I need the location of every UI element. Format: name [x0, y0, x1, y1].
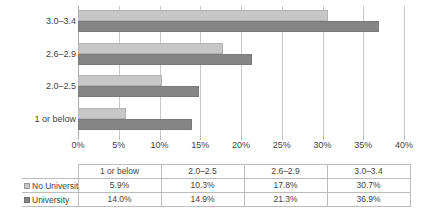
- table-column-header: 2.0–2.5: [161, 165, 244, 179]
- y-axis-label: 3.0–3.4: [0, 17, 76, 26]
- table-row: University14.0%14.9%21.3%36.9%: [22, 193, 410, 207]
- table-series-legend-cell: No University: [22, 179, 78, 193]
- bar-1: [78, 21, 379, 32]
- chart-data-table: 1 or below2.0–2.52.6–2.93.0–3.4No Univer…: [22, 164, 411, 207]
- x-axis-tick-label: 40%: [384, 140, 424, 150]
- grouped-bar-chart-with-data-table: 1 or below2.0–2.52.6–2.93.0–3.4 0%5%10%1…: [0, 0, 438, 215]
- bar-group: [78, 71, 404, 104]
- bar-0: [78, 75, 162, 86]
- table-column-header: 3.0–3.4: [327, 165, 410, 179]
- x-axis-tick-label: 20%: [221, 140, 261, 150]
- table-header-row: 1 or below2.0–2.52.6–2.93.0–3.4: [22, 165, 410, 179]
- table-row: No University5.9%10.3%17.8%30.7%: [22, 179, 410, 193]
- chart-plot-region: 1 or below2.0–2.52.6–2.93.0–3.4 0%5%10%1…: [0, 0, 438, 160]
- bar-group: [78, 104, 404, 137]
- x-axis-tick-label: 5%: [99, 140, 139, 150]
- x-axis-tick-label: 25%: [262, 140, 302, 150]
- y-axis-label: 2.0–2.5: [0, 82, 76, 91]
- bar-0: [78, 43, 223, 54]
- table-series-legend-cell: University: [22, 193, 78, 207]
- table-value-cell: 10.3%: [161, 179, 244, 193]
- x-axis-tick-label: 10%: [140, 140, 180, 150]
- legend-swatch-icon: [24, 197, 30, 203]
- legend-label: University: [32, 195, 69, 205]
- table-value-cell: 36.9%: [327, 193, 410, 207]
- bar-0: [78, 10, 328, 21]
- legend-label: No University: [32, 181, 78, 191]
- table-column-header: 2.6–2.9: [244, 165, 327, 179]
- plot-area: [78, 6, 404, 136]
- table-value-cell: 21.3%: [244, 193, 327, 207]
- table-value-cell: 30.7%: [327, 179, 410, 193]
- table-value-cell: 5.9%: [78, 179, 161, 193]
- bar-group: [78, 6, 404, 39]
- table-column-header: 1 or below: [78, 165, 161, 179]
- bar-1: [78, 119, 192, 130]
- y-axis-label: 2.6–2.9: [0, 50, 76, 59]
- gridline: [404, 6, 405, 136]
- y-axis-label: 1 or below: [0, 115, 76, 124]
- bar-1: [78, 54, 252, 65]
- bar-0: [78, 108, 126, 119]
- x-axis-tick-label: 30%: [303, 140, 343, 150]
- bar-group: [78, 39, 404, 72]
- table-value-cell: 14.9%: [161, 193, 244, 207]
- bar-1: [78, 86, 199, 97]
- x-axis-tick-label: 15%: [180, 140, 220, 150]
- legend-swatch-icon: [24, 183, 30, 189]
- table-corner-cell: [22, 165, 78, 179]
- table-value-cell: 14.0%: [78, 193, 161, 207]
- x-axis-tick-label: 0%: [58, 140, 98, 150]
- table-value-cell: 17.8%: [244, 179, 327, 193]
- x-axis-tick-label: 35%: [343, 140, 383, 150]
